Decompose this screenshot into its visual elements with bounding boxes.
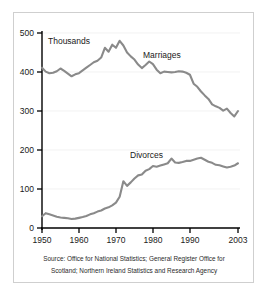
line-chart: 500 400 300 200 100 0 1950 1960 1970 198… [0,0,270,301]
y-tick-label-400: 400 [20,67,34,77]
series-line-divorces [42,158,238,219]
x-tick-label-1990: 1990 [181,235,200,245]
x-tick-label-1960: 1960 [70,235,89,245]
series-lines [42,41,238,219]
series-line-marriages [42,41,238,117]
y-tick-label-300: 300 [20,106,34,116]
y-tick-label-0: 0 [29,223,34,233]
x-tick-label-1970: 1970 [107,235,126,245]
x-tick-label-1950: 1950 [33,235,52,245]
gridlines [42,33,240,189]
y-axis: 500 400 300 200 100 0 [20,28,42,233]
y-tick-label-500: 500 [20,28,34,38]
series-label-divorces: Divorces [130,150,163,160]
y-tick-label-200: 200 [20,145,34,155]
x-tick-label-1980: 1980 [144,235,163,245]
source-line-1: Source: Office for National Statistics; … [43,255,225,263]
source-line-2: Scotland; Northern Ireland Statistics an… [51,267,218,275]
y-tick-label-100: 100 [20,184,34,194]
x-tick-label-2003: 2003 [229,235,248,245]
series-label-marriages: Marriages [143,50,181,60]
x-axis: 1950 1960 1970 1980 1990 2003 [33,228,248,245]
y-axis-unit-note: Thousands [48,36,90,46]
